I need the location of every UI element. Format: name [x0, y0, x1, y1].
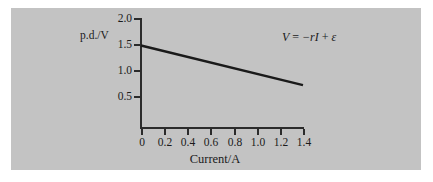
equation-plus: + — [322, 30, 329, 44]
x-axis-title: Current/A — [160, 152, 270, 167]
data-line-series — [141, 46, 303, 86]
equation-equals: = — [292, 30, 299, 44]
equation-rhs-term1: −rI — [302, 30, 319, 44]
equation-lhs: V — [282, 30, 289, 44]
plot-area: 2.0 1.5 1.0 0.5 0 0.2 0.4 0.6 0.8 1.0 1.… — [0, 0, 433, 182]
equation-rhs-term2: ε — [331, 30, 336, 44]
y-axis-title: p.d./V — [80, 29, 109, 41]
equation-annotation: V = −rI + ε — [282, 30, 336, 45]
figure-root: 2.0 1.5 1.0 0.5 0 0.2 0.4 0.6 0.8 1.0 1.… — [0, 0, 433, 182]
